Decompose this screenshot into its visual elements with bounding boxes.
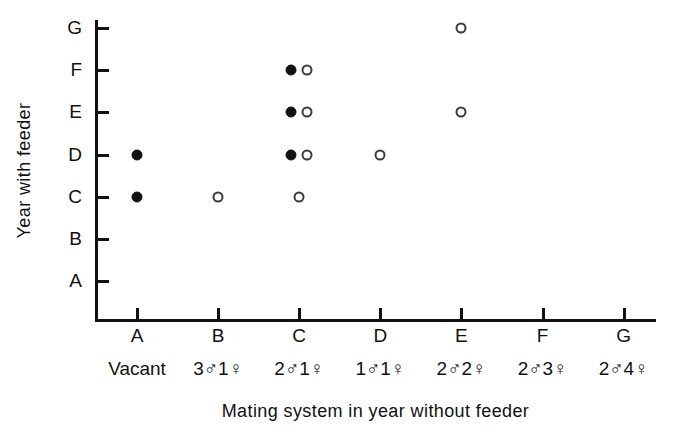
data-point-open-cf (302, 65, 313, 76)
y-axis-label-text: A (0, 271, 82, 290)
y-axis-tick-f (98, 69, 109, 72)
x-axis-sublabel-f: 2♂3♀ (518, 358, 568, 380)
x-axis-label-b: B (212, 326, 225, 345)
y-axis-label-d: D (0, 145, 82, 164)
data-point-open-ee (456, 107, 467, 118)
x-axis-label-f: F (537, 326, 549, 345)
y-axis-label-c: C (0, 187, 82, 206)
y-axis-label-text: B (0, 229, 82, 248)
y-axis-line (95, 20, 98, 322)
x-axis-label-e: E (455, 326, 468, 345)
data-point-filled-cd (286, 149, 297, 160)
y-axis-label-text: G (0, 18, 82, 37)
x-axis-tick-a (136, 308, 139, 320)
y-axis-tick-g (98, 27, 109, 30)
x-axis-tick-b (217, 308, 220, 320)
data-point-open-ce (302, 107, 313, 118)
x-axis-tick-e (460, 308, 463, 320)
x-axis-tick-g (623, 308, 626, 320)
x-axis-sublabel-c: 2♂1♀ (274, 358, 324, 380)
x-axis-line (95, 319, 656, 322)
y-axis-tick-e (98, 111, 109, 114)
y-axis-tick-c (98, 196, 109, 199)
y-axis-tick-a (98, 280, 109, 283)
y-axis-title: Year with feeder (14, 76, 35, 266)
x-axis-label-d: D (373, 326, 387, 345)
scatter-plot-figure: ABCDEFG ABCDEFG Vacant3♂1♀2♂1♀1♂1♀2♂2♀2♂… (0, 0, 693, 435)
y-axis-label-e: E (0, 102, 82, 121)
data-point-open-bc (213, 191, 224, 202)
y-axis-label-b: B (0, 229, 82, 248)
x-axis-sublabel-d: 1♂1♀ (355, 358, 405, 380)
x-axis-tick-d (379, 308, 382, 320)
x-axis-tick-c (298, 308, 301, 320)
x-axis-sublabel-b: 3♂1♀ (193, 358, 243, 380)
y-axis-label-text: C (0, 187, 82, 206)
y-axis-tick-d (98, 154, 109, 157)
y-axis-label-text: F (0, 60, 82, 79)
data-point-filled-ce (286, 107, 297, 118)
y-axis-label-f: F (0, 60, 82, 79)
y-axis-tick-b (98, 238, 109, 241)
x-axis-label-a: A (131, 326, 144, 345)
x-axis-label-c: C (292, 326, 306, 345)
x-axis-title: Mating system in year without feeder (95, 401, 656, 422)
data-point-open-eg (456, 23, 467, 34)
x-axis-tick-f (542, 308, 545, 320)
data-point-open-cd (302, 149, 313, 160)
data-point-open-dd (375, 149, 386, 160)
y-axis-label-g: G (0, 18, 82, 37)
x-axis-sublabel-a: Vacant (108, 358, 166, 380)
y-axis-label-text: E (0, 102, 82, 121)
data-point-open-cc (294, 191, 305, 202)
x-axis-sublabel-g: 2♂4♀ (599, 358, 649, 380)
data-point-filled-cf (286, 65, 297, 76)
y-axis-label-text: D (0, 145, 82, 164)
x-axis-sublabel-e: 2♂2♀ (437, 358, 487, 380)
data-point-filled-ad (132, 149, 143, 160)
x-axis-label-g: G (616, 326, 631, 345)
data-point-filled-ac (132, 191, 143, 202)
y-axis-label-a: A (0, 271, 82, 290)
